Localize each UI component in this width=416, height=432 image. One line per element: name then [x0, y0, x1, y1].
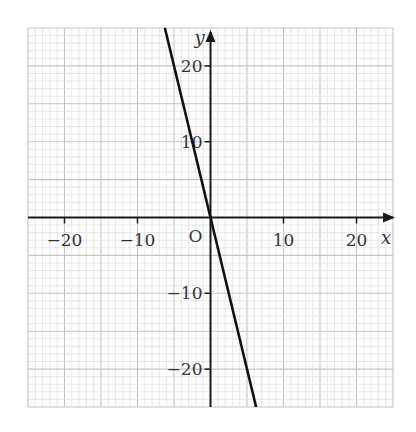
y-tick-label: 20	[181, 56, 203, 76]
x-tick-label: −20	[47, 230, 83, 250]
y-axis-label: y	[194, 27, 206, 48]
y-axis-arrow-icon	[206, 30, 216, 42]
x-tick-label: 10	[273, 230, 295, 250]
x-tick-label: 20	[346, 230, 368, 250]
y-tick-label: −20	[167, 359, 203, 379]
x-axis-label: x	[381, 227, 391, 248]
x-tick-label: −10	[120, 230, 156, 250]
graph: −20−1010202010−10−20 x y O	[0, 0, 416, 432]
origin-label: O	[189, 226, 203, 246]
y-tick-label: −10	[167, 283, 203, 303]
